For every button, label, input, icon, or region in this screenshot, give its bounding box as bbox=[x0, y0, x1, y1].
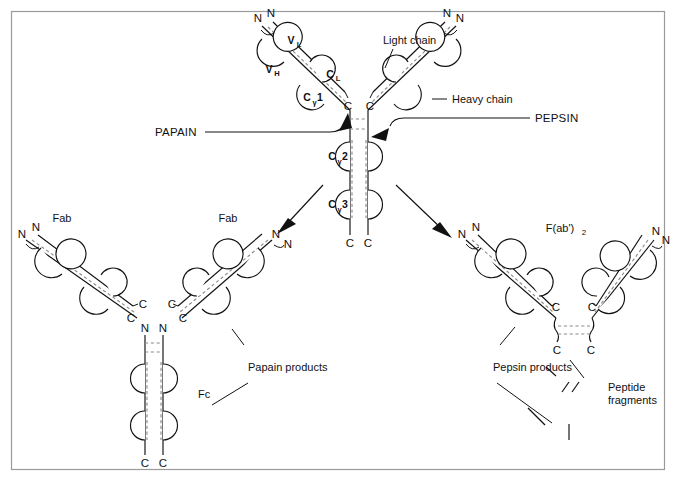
fab2-right-n-light: N bbox=[662, 234, 670, 246]
domain-label-cg2-base: C bbox=[328, 150, 336, 162]
fab-left-label: Fab bbox=[53, 212, 72, 224]
fab2-right-lobe-vl bbox=[600, 241, 630, 271]
fab-left-c-heavy: C bbox=[127, 312, 135, 324]
fab2-right-c-light: C bbox=[588, 301, 596, 313]
domain-label-vh-sub: H bbox=[274, 69, 279, 78]
c-terminus-fc-left: C bbox=[346, 237, 354, 249]
papain-products-label-line1: Papain products bbox=[248, 361, 328, 373]
pepsin-products-label: Pepsin products bbox=[493, 361, 572, 373]
fab-left-lobe-vl bbox=[56, 239, 86, 269]
light-chain-label: Light chain bbox=[383, 34, 436, 46]
c-terminus-right-light: C bbox=[366, 100, 374, 112]
domain-label-cl-sub: L bbox=[336, 74, 341, 83]
domain-label-vl-sub: L bbox=[297, 40, 302, 49]
n-terminus-left-light: N bbox=[267, 7, 275, 19]
domain-label-vl-base: V bbox=[287, 34, 294, 46]
fc-frag-c-right: C bbox=[159, 457, 167, 469]
fab-middle-c-heavy: C bbox=[179, 312, 187, 324]
peptide-fragments-label-line1: Peptide bbox=[608, 381, 645, 393]
c-terminus-fc-right: C bbox=[364, 237, 372, 249]
n-terminus-right-heavy: N bbox=[456, 12, 464, 24]
domain-label-cg1-num: 1 bbox=[317, 91, 323, 103]
canvas-background bbox=[0, 0, 676, 481]
fc-label: Fc bbox=[198, 388, 211, 400]
figure-root: N N C V L V H C L C γ 1 bbox=[0, 0, 676, 481]
fab-middle-label: Fab bbox=[219, 212, 238, 224]
fab2-c-left: C bbox=[553, 344, 561, 356]
domain-label-cg3-num: 3 bbox=[342, 198, 348, 210]
papain-label: PAPAIN bbox=[155, 126, 197, 138]
fc-frag-n-left: N bbox=[141, 322, 149, 334]
fc-frag-n-right: N bbox=[159, 322, 167, 334]
domain-label-cg1-base: C bbox=[303, 91, 311, 103]
n-terminus-left-heavy: N bbox=[254, 12, 262, 24]
n-terminus-right-light: N bbox=[443, 7, 451, 19]
fab-middle-n-heavy: N bbox=[272, 228, 280, 240]
fab-left-c-light: C bbox=[139, 298, 147, 310]
fc-frag-c-left: C bbox=[141, 457, 149, 469]
domain-label-cg2-num: 2 bbox=[342, 150, 348, 162]
domain-label-cl-base: C bbox=[326, 68, 334, 80]
fab-middle-lobe-vl bbox=[213, 239, 243, 269]
heavy-chain-label: Heavy chain bbox=[452, 93, 513, 105]
fab2-right-n-heavy: N bbox=[652, 225, 660, 237]
domain-label-cg3-base: C bbox=[328, 198, 336, 210]
peptide-fragments-label-line2: fragments bbox=[608, 394, 657, 406]
fab2-left-n-light: N bbox=[472, 221, 480, 233]
c-terminus-left-light: C bbox=[344, 100, 352, 112]
pepsin-label: PEPSIN bbox=[535, 112, 578, 124]
fab-middle-n-light: N bbox=[284, 238, 292, 250]
fab-middle-c-light: C bbox=[168, 298, 176, 310]
fab-left-n-heavy: N bbox=[18, 228, 26, 240]
fab2-left-n-heavy: N bbox=[458, 228, 466, 240]
fab2-c-right: C bbox=[587, 344, 595, 356]
fab-left-n-light: N bbox=[32, 221, 40, 233]
fab2-left-c-light: C bbox=[552, 301, 560, 313]
domain-label-vh-base: V bbox=[265, 63, 272, 75]
fab2-left-lobe-vl bbox=[496, 239, 526, 269]
antibody-cleavage-diagram: N N C V L V H C L C γ 1 bbox=[0, 0, 676, 481]
fab2-label-sub: 2 bbox=[582, 228, 587, 237]
fab2-label: F(ab') bbox=[546, 222, 574, 234]
